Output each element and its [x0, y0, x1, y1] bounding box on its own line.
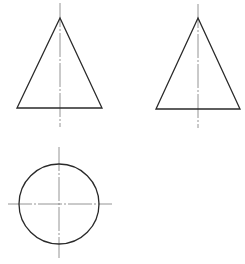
front-view-triangle — [17, 18, 102, 108]
drawing-canvas — [0, 0, 245, 264]
top-view — [8, 147, 112, 258]
front-view — [17, 3, 102, 127]
side-view — [156, 4, 240, 128]
cone-projection-drawing — [0, 0, 245, 264]
